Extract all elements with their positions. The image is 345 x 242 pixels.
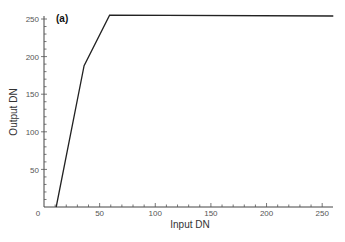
y-tick-label-200: 200: [26, 53, 40, 62]
y-tick-label-50: 50: [30, 166, 39, 175]
x-tick-label-250: 250: [316, 209, 330, 218]
x-tick-label-50: 50: [95, 209, 104, 218]
x-tick-label-0: 0: [36, 209, 41, 218]
stretch-function-line: [56, 15, 333, 207]
y-tick-label-100: 100: [26, 128, 40, 137]
stretch-chart: 0 50 100 150 200 250 50 100 150 200 250 …: [0, 0, 345, 242]
x-tick-label-150: 150: [204, 209, 218, 218]
y-tick-label-250: 250: [26, 15, 40, 24]
panel-label: (a): [56, 13, 68, 24]
x-axis-title: Input DN: [170, 219, 209, 230]
x-tick-label-200: 200: [260, 209, 274, 218]
y-axis-title: Output DN: [8, 88, 19, 135]
x-tick-label-100: 100: [149, 209, 163, 218]
y-tick-label-150: 150: [26, 90, 40, 99]
x-ticks: [55, 203, 322, 207]
